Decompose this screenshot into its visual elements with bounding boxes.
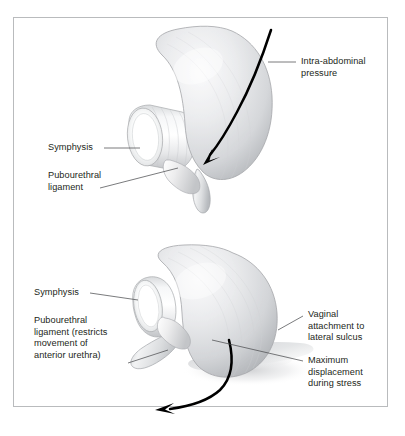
label-symphysis-bottom: Symphysis	[34, 287, 92, 299]
leader-vaginal-attachment	[278, 316, 303, 330]
label-intra-abdominal-pressure: Intra-abdominal pressure	[301, 56, 389, 79]
label-maximum-displacement: Maximum displacement during stress	[308, 355, 390, 390]
leader-symphysis-bottom	[90, 293, 138, 300]
top-panel-art	[100, 26, 296, 213]
label-symphysis-top: Symphysis	[48, 142, 106, 154]
figure-canvas: Intra-abdominal pressure Symphysis Pubou…	[0, 0, 405, 436]
pubourethral-ligament-top-shape	[163, 160, 200, 194]
label-vaginal-attachment: Vaginal attachment to lateral sulcus	[308, 309, 390, 344]
label-pubourethral-ligament-bottom: Pubourethral ligament (restricts movemen…	[34, 315, 130, 361]
label-pubourethral-ligament-top: Pubourethral ligament	[48, 170, 116, 193]
